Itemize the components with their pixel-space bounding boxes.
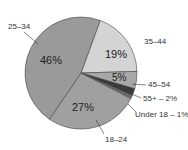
label-35-44: 35–44 [144,37,167,46]
pct-45-54: 5% [112,72,127,83]
label-25-34: 25–34 [8,22,31,31]
pct-35-44: 19% [105,48,127,60]
label-18-24: 18–24 [105,135,128,144]
pct-18-24: 27% [72,101,94,113]
pie-chart: 46% 19% 5% 27% 25–34 35–44 45–54 55+ – 2… [0,0,188,150]
label-under-18: Under 18 – 1% [135,110,188,119]
label-45-54: 45–54 [148,80,171,89]
label-55-plus: 55+ – 2% [143,94,177,103]
pct-25-34: 46% [40,54,62,66]
